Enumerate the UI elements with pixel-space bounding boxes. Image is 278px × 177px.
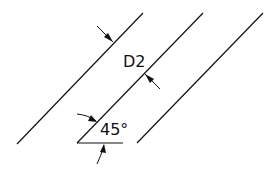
- angle-arrow-lower-icon: [97, 144, 106, 164]
- dimension-arrow-top-icon: [97, 26, 113, 42]
- angle-label: 45°: [100, 120, 128, 139]
- parallel-line-2: [77, 13, 203, 143]
- drawing-canvas: D2 45°: [0, 0, 278, 177]
- spacing-label: D2: [123, 52, 146, 71]
- parallel-line-3: [137, 13, 263, 143]
- dimension-arrow-bottom-icon: [145, 74, 160, 89]
- angle-arrow-upper-icon: [77, 114, 97, 122]
